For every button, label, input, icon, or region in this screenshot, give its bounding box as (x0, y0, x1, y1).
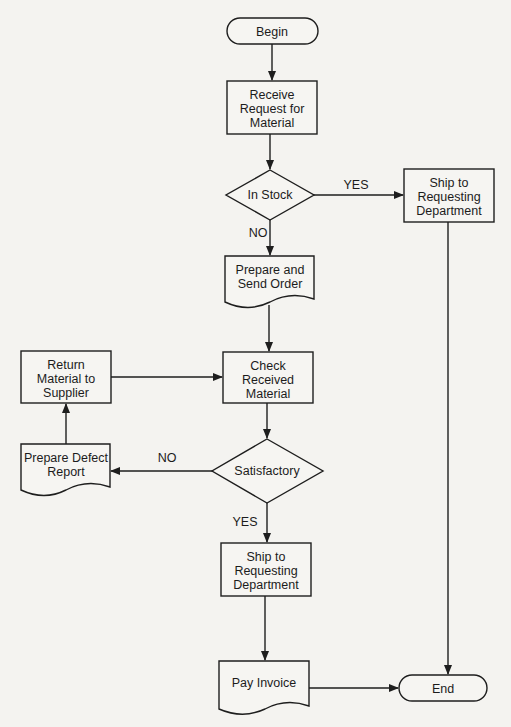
node-label: Pay Invoice (232, 676, 297, 690)
node-begin: Begin (227, 18, 318, 44)
node-label-line-1: Prepare and (236, 263, 305, 277)
node-label-line-2: Received (242, 373, 294, 387)
node-label-line-1: Check (250, 359, 286, 373)
node-label-line-2: Material to (37, 372, 95, 386)
node-label-line-2: Request for (240, 102, 305, 116)
node-label: In Stock (247, 188, 293, 202)
node-label-line-3: Material (250, 116, 294, 130)
edge-label-satisfactory-no: NO (158, 451, 177, 465)
node-label-line-2: Requesting (234, 564, 297, 578)
node-label-line-1: Prepare Defect (24, 451, 109, 465)
node-label: Begin (256, 25, 288, 39)
node-label: Satisfactory (234, 464, 300, 478)
node-satisfactory: Satisfactory (212, 439, 323, 503)
node-label-line-3: Department (233, 578, 299, 592)
node-prepare-order: Prepare and Send Order (225, 256, 314, 307)
node-ship-right: Ship to Requesting Department (404, 169, 494, 222)
node-label-line-1: Ship to (430, 176, 469, 190)
node-label-line-2: Report (47, 465, 85, 479)
node-label-line-3: Department (416, 204, 482, 218)
node-end: End (399, 675, 487, 701)
node-label-line-1: Return (47, 358, 85, 372)
flowchart-canvas: YES NO NO YES Begin Receive Request for … (0, 0, 511, 727)
node-label-line-2: Send Order (238, 277, 303, 291)
node-label: End (432, 682, 454, 696)
edge-label-instock-yes: YES (343, 178, 368, 192)
node-return-material: Return Material to Supplier (21, 351, 111, 403)
node-ship-bottom: Ship to Requesting Department (221, 543, 311, 596)
node-label-line-1: Ship to (247, 550, 286, 564)
node-receive-request: Receive Request for Material (227, 81, 317, 134)
node-defect-report: Prepare Defect Report (21, 444, 110, 495)
edge-label-satisfactory-yes: YES (232, 515, 257, 529)
node-label-line-2: Requesting (417, 190, 480, 204)
node-in-stock: In Stock (226, 170, 314, 220)
node-check-material: Check Received Material (223, 352, 313, 403)
edge-label-instock-no: NO (249, 226, 268, 240)
node-label-line-3: Material (246, 387, 290, 401)
node-label-line-3: Supplier (43, 386, 89, 400)
node-pay-invoice: Pay Invoice (219, 661, 309, 714)
node-label-line-1: Receive (249, 88, 294, 102)
